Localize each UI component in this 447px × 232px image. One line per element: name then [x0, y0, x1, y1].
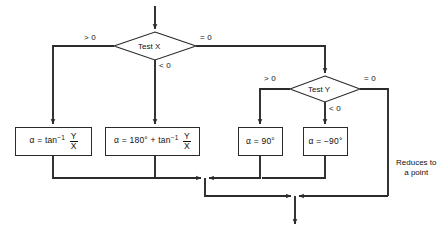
tan-operator: tan: [158, 136, 170, 146]
equals-symbol: =: [122, 136, 127, 146]
angle-prefix: 180°: [130, 136, 148, 146]
alpha-symbol: α: [29, 136, 34, 146]
edge-label-x-equal: = 0: [200, 33, 212, 42]
edge-x-gt: [53, 46, 114, 124]
edge-box3-out: [209, 156, 260, 178]
fraction-y-over-x: Y X: [70, 132, 78, 150]
edge-label-y-greater: > 0: [264, 74, 276, 83]
fraction-denominator: X: [183, 141, 191, 151]
fraction-numerator: Y: [70, 132, 78, 141]
edge-y-eq: [360, 89, 388, 196]
process-box-alpha-180-atan-text: α = 180° + tan−1 Y X: [114, 132, 191, 150]
flowchart-canvas: Test X Test Y > 0 = 0 < 0 > 0 = 0 < 0 α …: [0, 0, 447, 232]
decision-test-x-label: Test X: [138, 42, 160, 51]
process-box-alpha-minus-90-text: α = −90°: [308, 137, 342, 146]
alpha-symbol: α: [114, 136, 119, 146]
edge-label-y-less: < 0: [329, 104, 341, 113]
annotation-line-2: a point: [404, 168, 428, 177]
flowchart-connectors: [0, 0, 447, 232]
edge-label-x-greater: > 0: [84, 33, 96, 42]
edge-merge-drop: [205, 178, 291, 196]
edge-y-gt: [260, 89, 290, 124]
tan-exponent: −1: [57, 134, 65, 141]
process-box-alpha-90: α = 90°: [238, 127, 283, 156]
edge-label-y-equal: = 0: [364, 74, 376, 83]
process-box-alpha-minus-90: α = −90°: [303, 127, 348, 156]
fraction-numerator: Y: [183, 132, 191, 141]
tan-operator: tan: [45, 136, 57, 146]
plus-symbol: +: [150, 136, 155, 146]
edge-box1-out: [53, 156, 201, 178]
annotation-reduces-to-a-point: Reduces to a point: [396, 158, 436, 178]
decision-test-y-label: Test Y: [308, 85, 330, 94]
process-box-alpha-180-atan: α = 180° + tan−1 Y X: [105, 127, 200, 156]
edge-box4-out: [262, 156, 325, 178]
fraction-denominator: X: [70, 141, 78, 151]
process-box-alpha-atan-text: α = tan−1 Y X: [29, 132, 77, 150]
fraction-y-over-x: Y X: [183, 132, 191, 150]
annotation-line-1: Reduces to: [396, 158, 436, 167]
edge-x-eq: [196, 46, 325, 73]
tan-exponent: −1: [171, 134, 179, 141]
process-box-alpha-90-text: α = 90°: [246, 137, 275, 146]
edge-label-x-less: < 0: [159, 61, 171, 70]
equals-symbol: =: [37, 136, 42, 146]
process-box-alpha-atan: α = tan−1 Y X: [15, 127, 92, 156]
